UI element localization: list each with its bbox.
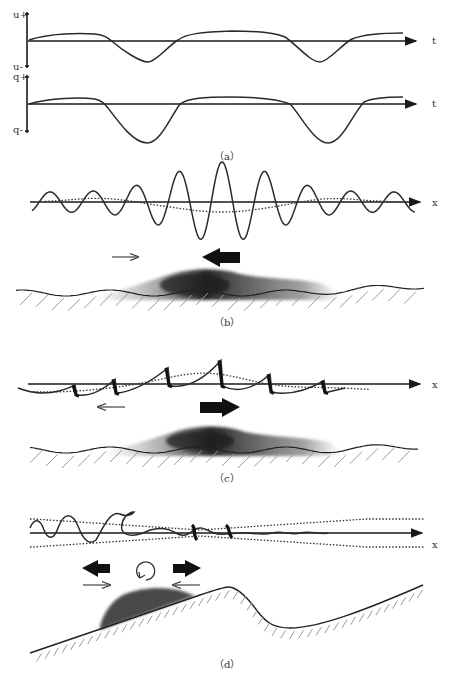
hatch-mark <box>88 636 93 644</box>
hatch-mark <box>398 451 410 463</box>
hatch-mark <box>79 639 84 647</box>
hatch-mark <box>384 604 389 612</box>
hatch-mark <box>37 653 42 661</box>
velocity-curve <box>29 31 403 62</box>
caption-a: （a） <box>214 151 240 162</box>
hatch-mark <box>372 289 384 301</box>
hatch-mark <box>173 607 178 615</box>
hatch-mark <box>147 616 152 624</box>
caption-d: （d） <box>214 659 240 670</box>
hatch-mark <box>148 299 160 311</box>
hatch-mark <box>62 645 67 653</box>
hatch-mark <box>139 619 144 627</box>
hatch-mark <box>52 298 64 310</box>
x-label-d: x <box>432 539 438 550</box>
large-onshore-arrow <box>200 398 240 417</box>
hatch-mark <box>307 629 312 637</box>
q-minus-label: q- <box>13 124 23 135</box>
hatch-mark <box>94 451 106 463</box>
hatch-mark <box>376 607 381 615</box>
velocity-subplot: u+ u- t <box>13 9 436 72</box>
hatch-mark <box>68 299 80 311</box>
hatch-mark <box>393 601 398 609</box>
caption-b: （b） <box>214 317 240 328</box>
hatch-mark <box>190 601 195 609</box>
hatch-mark <box>417 590 422 598</box>
hatch-mark <box>404 292 416 304</box>
x-label-c: x <box>432 379 438 390</box>
hatch-mark <box>30 451 42 463</box>
hatch-mark <box>54 648 59 656</box>
skewed-wave-curve <box>18 360 345 395</box>
hatch-mark <box>241 596 246 604</box>
sediment-cloud-b <box>95 269 340 300</box>
figure: u+ u- t q+ q- t （a） x <box>0 0 450 680</box>
hatch-mark <box>142 455 154 467</box>
large-offshore-arrow-d <box>82 560 110 577</box>
u-plus-label: u+ <box>13 9 28 20</box>
hatch-mark <box>289 631 294 639</box>
hatch-mark <box>164 610 169 618</box>
hatch-mark <box>224 590 229 598</box>
hatch-mark <box>158 456 170 468</box>
large-offshore-arrow <box>202 248 240 267</box>
hatch-mark <box>156 613 161 621</box>
hatch-mark <box>382 448 394 460</box>
breaker-front <box>226 525 232 538</box>
hatch-mark <box>388 289 400 301</box>
hatch-mark <box>71 642 76 650</box>
hatch-mark <box>45 651 50 659</box>
hatch-mark <box>351 617 356 625</box>
t-label-u: t <box>432 35 436 46</box>
circulation-icon <box>137 562 155 580</box>
hatch-mark <box>96 633 101 641</box>
hatch-mark <box>334 622 339 630</box>
hatch-mark <box>84 296 96 308</box>
large-onshore-arrow-d <box>173 560 201 577</box>
bound-long-wave-curve <box>45 198 399 212</box>
hatch-mark <box>36 295 48 307</box>
hatch-mark <box>342 620 347 628</box>
hatch-mark <box>356 291 368 303</box>
panel-c: x （c） <box>18 360 438 484</box>
hatch-mark <box>233 591 238 599</box>
hatch-mark <box>325 625 330 633</box>
hatch-mark <box>113 627 118 635</box>
caption-c: （c） <box>214 473 240 484</box>
hatch-mark <box>409 594 414 602</box>
hatch-mark <box>334 455 346 467</box>
q-plus-label: q+ <box>13 71 28 82</box>
hatch-mark <box>258 616 263 624</box>
hatch-mark <box>105 630 110 638</box>
hatch-mark <box>359 614 364 622</box>
hatch-mark <box>367 611 372 619</box>
flux-subplot: q+ q- t <box>13 71 436 143</box>
hatch-mark <box>350 452 362 464</box>
t-label-q: t <box>432 98 436 109</box>
hatch-mark <box>238 456 250 468</box>
hatch-mark <box>264 623 269 631</box>
panel-b: x （b） <box>16 162 438 328</box>
hatch-mark <box>46 454 58 466</box>
hatch-mark <box>130 621 135 629</box>
hatch-mark <box>318 455 330 467</box>
hatch-mark <box>281 630 286 638</box>
hatch-mark <box>78 455 90 467</box>
hatch-mark <box>340 295 352 307</box>
hatch-mark <box>216 593 221 601</box>
hatch-mark <box>401 597 406 605</box>
hatch-mark <box>20 293 32 305</box>
panel-a: u+ u- t q+ q- t （a） <box>13 9 436 162</box>
panel-d: x （d） <box>30 512 438 670</box>
hatch-mark <box>181 604 186 612</box>
hatch-mark <box>316 627 321 635</box>
hatch-mark <box>122 624 127 632</box>
hatch-mark <box>272 628 277 636</box>
x-label-b: x <box>432 197 438 208</box>
hatch-mark <box>254 455 266 467</box>
beach-hatching <box>37 590 423 661</box>
hatch-mark <box>62 456 74 468</box>
hatch-mark <box>298 630 303 638</box>
wave-group-curve <box>32 162 415 239</box>
hatch-mark <box>198 598 203 606</box>
